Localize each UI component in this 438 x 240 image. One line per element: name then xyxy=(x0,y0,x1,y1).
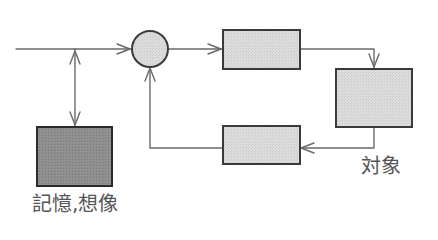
feedback-to-summing-line xyxy=(150,68,223,148)
forward-to-object-line xyxy=(300,49,374,68)
object-to-feedback-line xyxy=(301,127,374,148)
summing-junction xyxy=(132,31,168,67)
memory-block xyxy=(37,127,112,186)
object-block xyxy=(336,69,412,127)
memory-imagination-label: 記憶,想像 xyxy=(32,194,118,214)
feedback-block xyxy=(223,126,300,164)
object-label: 対象 xyxy=(361,156,401,176)
forward-block xyxy=(223,30,300,69)
